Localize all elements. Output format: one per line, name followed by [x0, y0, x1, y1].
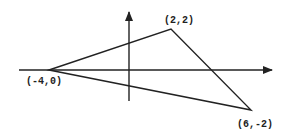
- vertex-label-a: (-4,0): [26, 76, 62, 87]
- diagram-canvas: (-4,0) (2,2) (6,-2): [0, 0, 287, 130]
- vertex-label-c: (6,-2): [237, 119, 273, 130]
- vertex-label-b: (2,2): [164, 15, 194, 26]
